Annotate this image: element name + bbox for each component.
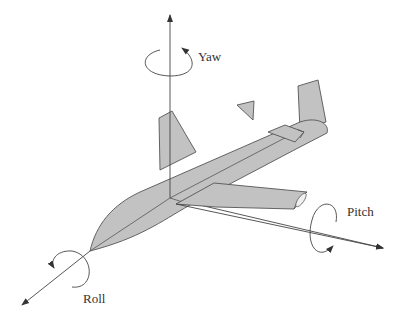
pitch-label: Pitch (347, 204, 374, 219)
roll-axis (22, 251, 90, 305)
yaw-rotation-arrow (145, 48, 192, 76)
yaw-label: Yaw (198, 49, 222, 64)
aircraft (90, 80, 327, 251)
aircraft-axes-diagram: Yaw Pitch Roll (0, 0, 396, 316)
left-horizontal-stabilizer (237, 101, 254, 120)
roll-label: Roll (83, 291, 106, 306)
pitch-rotation-arrow (310, 204, 336, 252)
left-wing (159, 111, 196, 170)
